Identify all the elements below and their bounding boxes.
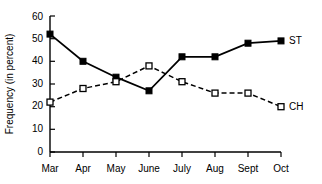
data-point-st-july[interactable] — [179, 54, 185, 60]
data-point-ch-oct[interactable] — [278, 104, 284, 110]
series-label-ch: CH — [289, 101, 303, 112]
data-point-st-apr[interactable] — [80, 58, 86, 64]
data-point-ch-apr[interactable] — [80, 86, 86, 92]
chart-svg: Frequency (in percent) 0 10 20 30 40 50 … — [0, 0, 322, 184]
x-tick-label-mar: Mar — [41, 163, 59, 174]
y-tick-label-20: 20 — [32, 100, 44, 111]
x-tick-label-july: July — [173, 163, 191, 174]
y-tick-label-30: 30 — [32, 78, 44, 89]
y-tick-label-0: 0 — [37, 146, 43, 157]
y-tick-label-10: 10 — [32, 123, 44, 134]
data-point-ch-aug[interactable] — [212, 90, 218, 96]
data-point-st-june[interactable] — [146, 88, 152, 94]
data-point-ch-may[interactable] — [113, 79, 119, 85]
data-point-st-oct[interactable] — [278, 38, 284, 44]
x-tick-label-sept: Sept — [238, 163, 259, 174]
y-tick-label-50: 50 — [32, 33, 44, 44]
y-tick-label-60: 60 — [32, 11, 44, 22]
x-tick-label-oct: Oct — [273, 163, 289, 174]
data-point-st-aug[interactable] — [212, 54, 218, 60]
x-tick-label-june: June — [138, 163, 160, 174]
data-point-st-mar[interactable] — [47, 31, 53, 37]
data-point-st-sept[interactable] — [245, 40, 251, 46]
x-tick-label-apr: Apr — [75, 163, 91, 174]
x-tick-label-aug: Aug — [206, 163, 224, 174]
data-point-ch-june[interactable] — [146, 63, 152, 69]
series-label-st: ST — [289, 35, 302, 46]
y-tick-label-40: 40 — [32, 55, 44, 66]
y-axis-title: Frequency (in percent) — [4, 34, 15, 135]
series-layer — [47, 31, 284, 110]
line-chart: Frequency (in percent) 0 10 20 30 40 50 … — [0, 0, 322, 184]
data-point-ch-mar[interactable] — [47, 99, 53, 105]
data-point-ch-sept[interactable] — [245, 90, 251, 96]
data-point-ch-july[interactable] — [179, 79, 185, 85]
x-tick-label-may: May — [107, 163, 126, 174]
